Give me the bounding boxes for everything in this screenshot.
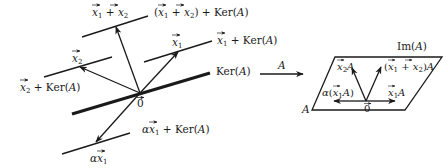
svg-text:x2: x2 [72,52,82,66]
svg-text:0: 0 [364,103,370,114]
vector-x1-plus-x2 [116,27,140,93]
plane-label: A [301,103,310,115]
coset-line-x1-plus-x2 [82,16,148,37]
mapping-arrow-label: A [277,59,286,71]
domain-space: Ker(A) 0 x1 + x2 (x1 + x2) + Ker(A) [20,5,277,166]
svg-text:αx1: αx1 [90,152,107,166]
label-coset-x1: x1 + Ker(A) [217,33,277,48]
label-x1-plus-x2-A: (x1 + x2)A [384,60,434,74]
label-x1A: x1A [388,86,405,100]
label-x2A: x2A [337,60,354,74]
svg-text:αx1 + Ker(A): αx1 + Ker(A) [142,123,210,137]
vector-x2 [80,67,140,93]
kernel-image-diagram: Ker(A) 0 x1 + x2 (x1 + x2) + Ker(A) [0,0,448,168]
vector-x1-plus-x2-A [366,67,381,101]
label-coset-x2: x2 + Ker(A) [20,80,80,95]
svg-text:x1A: x1A [388,87,405,100]
coset-line-alpha-x1 [62,133,130,154]
svg-text:(x1 + x2) + Ker(A): (x1 + x2) + Ker(A) [154,6,249,20]
label-x1: x1 [172,35,182,50]
vector-x2A [352,68,366,101]
label-alpha-x1: αx1 [90,151,107,166]
label-coset-alpha-x1: αx1 + Ker(A) [142,122,210,137]
label-x2: x2 [72,51,82,66]
label-alpha-x1A: α(x1A) [322,86,354,100]
svg-text:x2 + Ker(A): x2 + Ker(A) [20,81,80,95]
label-coset-x1-plus-x2: (x1 + x2) + Ker(A) [154,5,249,20]
svg-text:x2A: x2A [337,61,354,74]
svg-text:α(x1A): α(x1A) [322,87,354,100]
svg-text:(x1 + x2)A: (x1 + x2)A [384,61,434,74]
label-x1-plus-x2: x1 + x2 [92,5,128,20]
image-space: Im(A) A x2A (x1 + x2)A x1A α(x1A) 0 [301,40,442,115]
svg-text:x1 + Ker(A): x1 + Ker(A) [217,34,277,48]
mapping-arrow: A [260,59,303,74]
image-label: Im(A) [397,40,427,52]
origin-label-left: 0 [137,97,144,109]
svg-text:0: 0 [137,97,144,109]
svg-text:x1: x1 [172,36,182,50]
origin-label-right: 0 [364,103,371,114]
svg-text:x1 + x2: x1 + x2 [92,6,128,20]
kernel-label: Ker(A) [216,65,251,77]
